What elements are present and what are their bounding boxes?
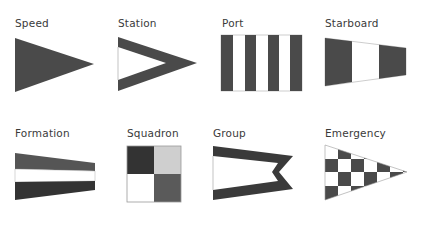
starboard-flag-icon xyxy=(325,38,406,86)
port-flag-icon xyxy=(221,35,302,91)
group-flag-icon xyxy=(213,146,293,200)
speed-flag-icon xyxy=(15,38,94,92)
formation-flag-icon xyxy=(15,153,95,200)
squadron-flag-icon xyxy=(127,146,181,202)
emergency-flag-icon xyxy=(325,145,416,200)
station-flag-icon xyxy=(118,37,197,91)
